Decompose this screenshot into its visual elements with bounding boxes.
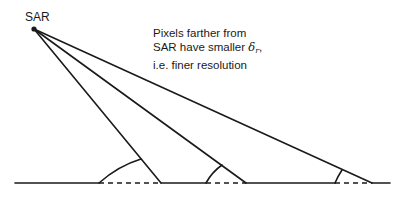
note-line-2-suffix: , — [259, 41, 262, 53]
range-arc-far — [335, 170, 342, 183]
sar-resolution-diagram: SAR Pixels farther from SAR have smaller… — [0, 0, 402, 197]
range-arc-mid — [206, 165, 222, 183]
sar-sensor-point-icon — [31, 26, 36, 31]
note-line-2: SAR have smaller δr, — [153, 40, 262, 58]
slant-range-ray-near — [34, 29, 161, 183]
range-arc-near — [99, 159, 141, 183]
sar-label: SAR — [25, 10, 50, 24]
note-line-3: i.e. finer resolution — [153, 58, 262, 72]
annotation-note: Pixels farther from SAR have smaller δr,… — [153, 26, 262, 72]
note-line-1: Pixels farther from — [153, 26, 262, 40]
note-line-2-prefix: SAR have smaller — [153, 41, 248, 53]
